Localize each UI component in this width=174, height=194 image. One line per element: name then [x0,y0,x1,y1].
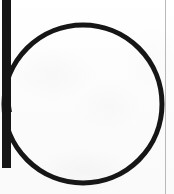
letter-glyph-p [0,0,174,194]
circle-bowl [4,25,162,183]
right-edge-rule [165,0,166,194]
scanned-image-canvas [0,0,174,194]
